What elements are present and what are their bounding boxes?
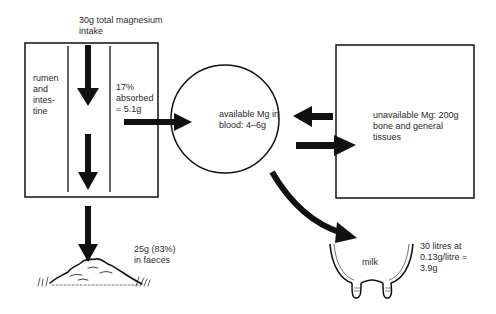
blood-line: available Mg in [219,109,279,120]
faeces-line: in faeces [134,255,176,266]
unavailable-line: tissues [373,132,459,143]
udder-icon [330,244,413,298]
rumen-line: rumen [33,73,59,84]
milk-yield-line: 0.13g/litre = [420,252,467,263]
rumen-line: tine [33,106,59,117]
unavailable-line: bone and general [373,121,459,132]
blood-line: blood: 4–6g [219,120,279,131]
intake-label-line2: intake [79,26,169,37]
milk-arrow-icon [272,172,357,243]
intake-label-line1: 30g total magnesium [79,15,169,26]
rumen-line: and [33,84,59,95]
milk-label: milk [362,257,378,268]
milk-yield-line: 3.9g [420,263,467,274]
faeces-arrow-icon [78,206,98,262]
blood-label: available Mg in blood: 4–6g [219,109,279,131]
faeces-label: 25g (83%) in faeces [134,244,176,266]
intake-arrow-icon [77,45,99,106]
faeces-line: 25g (83%) [134,244,176,255]
unavailable-line: unavailable Mg: 200g [373,110,459,121]
milk-yield-line: 30 litres at [420,241,467,252]
rumen-label: rumen and intes- tine [33,73,59,117]
milk-yield-label: 30 litres at 0.13g/litre = 3.9g [420,241,467,274]
rumen-line: intes- [33,95,59,106]
deposit-arrow-icon [296,135,356,156]
intake-label: 30g total magnesium intake [79,15,169,37]
absorbed-line: = 5.1g [116,104,154,115]
tract-arrow-icon [78,134,98,190]
absorbed-line: absorbed [116,93,154,104]
absorbed-label: 17% absorbed = 5.1g [116,82,154,115]
unavailable-label: unavailable Mg: 200g bone and general ti… [373,110,459,143]
release-arrow-icon [293,106,333,127]
absorbed-line: 17% [116,82,154,93]
